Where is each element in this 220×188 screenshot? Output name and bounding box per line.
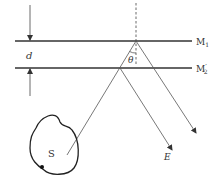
source-region (30, 115, 78, 174)
reflected-ray-m2 (120, 68, 172, 150)
interference-diagram: d θ M1 M′2 S E (0, 0, 220, 188)
mirror-m1-label: M1 (196, 37, 209, 48)
angle-label: θ (128, 55, 134, 65)
reflected-ray-m1 (136, 41, 196, 133)
mirror-m2-prime-label: M′2 (196, 63, 208, 75)
source-point (40, 165, 44, 169)
angle-arc (130, 52, 136, 54)
eye-label: E (163, 152, 171, 162)
spacing-label: d (26, 50, 32, 61)
source-label: S (48, 148, 55, 159)
incident-ray (67, 41, 136, 155)
